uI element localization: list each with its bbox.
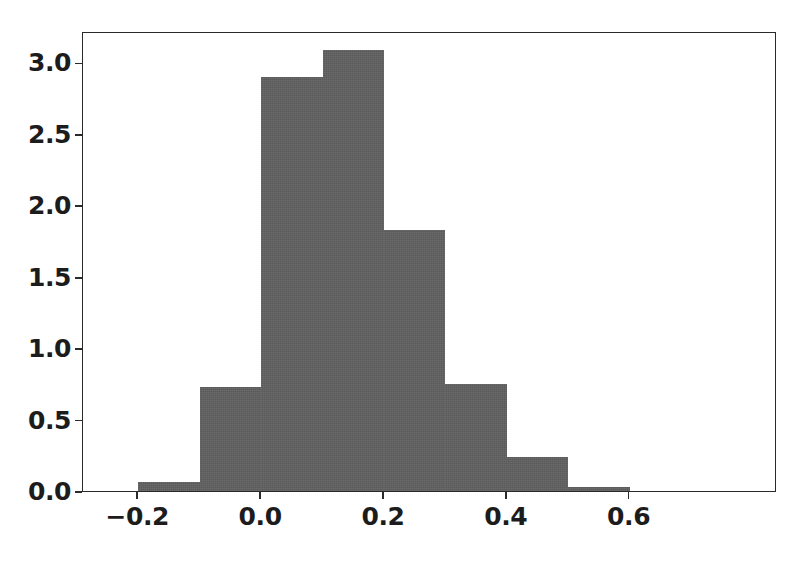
y-axis-tick-label: 1.0 <box>28 336 71 361</box>
histogram-bar <box>507 457 568 491</box>
y-axis-tick-label: 0.5 <box>28 408 71 433</box>
histogram-bar <box>568 487 629 491</box>
histogram-bars <box>83 33 775 491</box>
y-axis-tick-label: 0.0 <box>28 479 71 504</box>
histogram-bar <box>138 482 199 491</box>
histogram-bar <box>323 50 384 491</box>
y-axis-tick-label: 2.0 <box>28 193 71 218</box>
histogram-figure: 0.00.51.01.52.02.53.0 −0.20.00.20.40.6 <box>0 0 810 564</box>
x-axis-tick-label: 0.4 <box>484 504 527 529</box>
histogram-bar <box>261 77 322 491</box>
x-axis-tick-label: −0.2 <box>105 504 169 529</box>
y-axis-tick-mark <box>75 277 82 279</box>
y-axis-tick-mark <box>75 491 82 493</box>
x-axis-tick-label: 0.6 <box>607 504 650 529</box>
y-axis-tick-mark <box>75 420 82 422</box>
x-axis-tick-mark <box>505 492 507 499</box>
y-axis-tick-mark <box>75 134 82 136</box>
y-axis-tick-mark <box>75 348 82 350</box>
x-axis-tick-mark <box>382 492 384 499</box>
y-axis-tick-label: 3.0 <box>28 50 71 75</box>
y-axis-tick-label: 1.5 <box>28 265 71 290</box>
x-axis-tick-mark <box>259 492 261 499</box>
plot-area <box>82 32 776 492</box>
x-axis-tick-mark <box>628 492 630 499</box>
x-axis-tick-label: 0.2 <box>361 504 404 529</box>
y-axis-tick-mark <box>75 63 82 65</box>
y-axis-tick-mark <box>75 205 82 207</box>
histogram-bar <box>384 230 445 491</box>
x-axis-tick-label: 0.0 <box>239 504 282 529</box>
y-axis-tick-label: 2.5 <box>28 122 71 147</box>
x-axis-tick-mark <box>136 492 138 499</box>
histogram-bar <box>445 384 506 491</box>
histogram-bar <box>200 387 261 491</box>
